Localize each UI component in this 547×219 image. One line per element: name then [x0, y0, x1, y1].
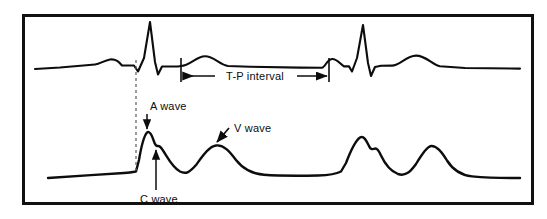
v-wave-label: V wave: [234, 122, 271, 134]
figure-background: [0, 0, 547, 219]
a-wave-label: A wave: [150, 100, 187, 112]
waveform-diagram-canvas: T-P interval A wave C wave V wave: [0, 0, 547, 219]
c-wave-label: C wave: [140, 193, 178, 205]
venous-pulse-ecg-figure: T-P interval A wave C wave V wave: [0, 0, 547, 219]
tp-interval-label: T-P interval: [226, 70, 284, 82]
